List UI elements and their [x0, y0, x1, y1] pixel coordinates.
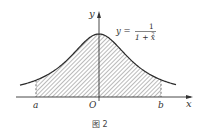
svg-text:y =: y = [115, 26, 131, 36]
function-label: y = 1 1 + x 2 [115, 22, 156, 42]
y-axis-label: y [88, 8, 95, 19]
origin-label: O [89, 100, 97, 110]
integral-figure: y x O a b y = 1 1 + x 2 图 2 [0, 0, 203, 139]
b-label: b [158, 100, 164, 110]
a-label: a [33, 100, 38, 110]
x-axis-label: x [186, 98, 192, 109]
y-axis-arrow-icon [97, 11, 101, 18]
svg-text:2: 2 [152, 31, 155, 37]
svg-text:1: 1 [149, 22, 154, 31]
figure-caption: 图 2 [92, 120, 108, 129]
shaded-area [36, 34, 161, 97]
